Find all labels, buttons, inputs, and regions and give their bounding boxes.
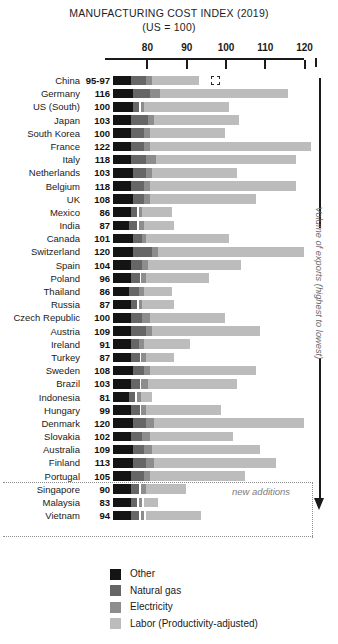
chart-row: Austria109 [0,325,338,338]
bar-segment-natural [131,313,143,323]
x-axis-tick [304,60,306,69]
bar-segment-natural [131,405,141,415]
bar-segment-natural [131,181,145,191]
stacked-bar [113,260,241,270]
row-country-label: South Korea [27,127,80,140]
bar-segment-natural [131,432,143,442]
bar-segment-other [113,313,131,323]
bar-segment-labor [158,247,303,257]
bar-segment-labor [154,418,303,428]
row-country-label: Vietnam [45,509,80,522]
stacked-bar [113,273,209,283]
bar-segment-other [113,76,131,86]
bar-segment-natural [131,260,143,270]
bar-segment-electricity [146,155,156,165]
bar-segment-labor [150,366,256,376]
bar-segment-natural [131,326,147,336]
chart-row: Germany116 [0,87,338,100]
new-additions-divider [3,482,313,483]
bar-segment-natural [133,194,145,204]
bar-segment-electricity [146,418,154,428]
row-country-label: Switzerland [31,245,80,258]
stacked-bar [113,287,170,297]
bar-segment-labor [154,115,238,125]
row-index-value: 118 [82,153,110,166]
row-index-value: 118 [82,180,110,193]
chart-row: Spain104 [0,259,338,272]
bar-segment-other [113,471,131,481]
bar-rows: China95-97Germany116US (South)100Japan10… [0,74,338,522]
row-index-value: 94 [82,509,110,522]
bar-segment-labor [154,458,276,468]
stacked-bar [113,128,225,138]
bar-segment-electricity [139,498,143,508]
stacked-bar [113,484,186,494]
bar-segment-natural [133,366,145,376]
arrow-down-icon [314,498,324,510]
bar-segment-natural [131,155,147,165]
stacked-bar [113,181,296,191]
row-country-label: Germany [41,87,80,100]
stacked-bar [113,471,245,481]
row-index-value: 108 [82,193,110,206]
row-index-value: 87 [82,351,110,364]
chart-row: Belgium118 [0,180,338,193]
stacked-bar [113,353,174,363]
row-country-label: Denmark [41,417,80,430]
bar-segment-natural [133,445,145,455]
bar-segment-other [113,405,131,415]
legend-swatch-icon [110,618,121,629]
stacked-bar [113,458,276,468]
chart-row: Finland113 [0,456,338,469]
row-country-label: Thailand [44,285,80,298]
stacked-bar [113,234,229,244]
new-additions-label: new additions [232,486,290,497]
bar-segment-other [113,511,131,521]
legend-swatch-icon [110,602,121,613]
bar-segment-other [113,142,131,152]
legend-swatch-icon [110,585,121,596]
row-country-label: Sweden [46,364,80,377]
bar-segment-labor [150,313,225,323]
stacked-bar [113,300,174,310]
bar-segment-labor [144,221,173,231]
chart-row: India87 [0,219,338,232]
row-index-value: 113 [82,456,110,469]
bar-segment-natural [129,392,135,402]
bar-segment-labor [148,379,236,389]
row-index-value: 81 [82,391,110,404]
chart-row: Czech Republic100 [0,311,338,324]
chart-row: UK108 [0,193,338,206]
stacked-bar [113,313,225,323]
bar-segment-other [113,379,131,389]
stacked-bar [113,89,288,99]
bar-segment-natural [131,498,137,508]
stacked-bar [113,379,237,389]
bar-segment-labor [160,89,288,99]
stacked-bar [113,115,237,125]
bar-segment-electricity [142,313,150,323]
bar-segment-labor [152,326,260,336]
stacked-bar [113,511,201,521]
chart-row: Brazil103 [0,377,338,390]
bar-segment-natural [131,511,139,521]
bar-segment-labor [142,300,173,310]
bar-segment-other [113,287,129,297]
chart-row: Mexico86 [0,206,338,219]
bar-segment-natural [131,273,141,283]
bar-segment-labor [144,339,189,349]
row-index-value: 103 [82,114,110,127]
row-country-label: India [59,219,80,232]
row-country-label: Canada [47,232,80,245]
chart-row: Hungary99 [0,404,338,417]
stacked-bar [113,498,158,508]
bar-segment-labor [146,273,209,283]
bar-segment-natural [131,484,139,494]
bar-segment-other [113,498,131,508]
bar-segment-other [113,339,131,349]
chart-row: Switzerland120 [0,245,338,258]
row-index-value: 108 [82,364,110,377]
bar-segment-other [113,445,133,455]
bar-segment-natural [131,300,137,310]
bar-segment-electricity [142,432,150,442]
